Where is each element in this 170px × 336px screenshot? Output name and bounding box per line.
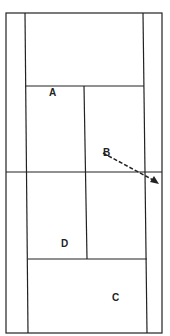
label-b: B <box>103 147 110 158</box>
left-singles-line <box>25 13 28 333</box>
tennis-court <box>0 0 170 336</box>
doubles-boundary <box>6 13 162 333</box>
label-c: C <box>112 292 119 303</box>
label-a: A <box>49 87 56 98</box>
arrow-icon <box>103 153 159 184</box>
right-singles-line <box>143 13 147 333</box>
label-d: D <box>61 238 68 249</box>
